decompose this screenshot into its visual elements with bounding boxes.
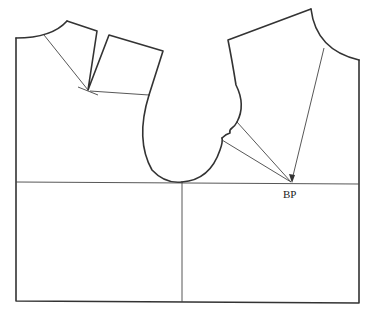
- front-neckline: [311, 9, 359, 60]
- back-neckline: [16, 21, 67, 38]
- bp-label: BP: [283, 188, 296, 200]
- back-outline: [16, 38, 359, 303]
- back-armhole: [143, 95, 182, 182]
- back-dart-guide: [90, 91, 149, 95]
- back-dart-leg: [44, 35, 88, 90]
- front-side-notch: [222, 122, 237, 138]
- bust-line: [16, 182, 359, 184]
- front-dart-leg-upper: [237, 122, 291, 182]
- front-shoulder: [228, 9, 311, 122]
- shoulder-to-bp-line: [292, 48, 324, 180]
- back-shoulder-dart: [67, 21, 163, 95]
- front-dart-leg-lower: [222, 140, 291, 182]
- front-armhole: [182, 138, 222, 182]
- pattern-diagram: BP: [0, 0, 371, 317]
